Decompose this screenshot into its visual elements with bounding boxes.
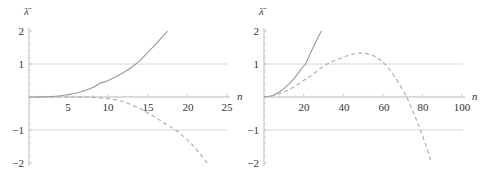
x-tick-label: 5	[65, 101, 71, 113]
x-tick-label: 80	[418, 101, 430, 113]
y-tick-label: −2	[12, 157, 24, 169]
x-axis-label: n	[472, 90, 478, 102]
x-tick-label: 15	[143, 101, 155, 113]
y-axis-label: λ̄	[258, 5, 267, 17]
y-tick-label: 2	[19, 25, 25, 37]
y-tick-label: 1	[254, 58, 260, 70]
x-tick-label: 40	[339, 101, 351, 113]
right-chart: λ̄ n 2 1 −1 −2 20 40 60 80 100	[247, 5, 478, 169]
y-axis-label: λ̄	[23, 5, 32, 17]
y-tick-label: −1	[247, 124, 259, 136]
x-tick-label: 20	[299, 101, 311, 113]
y-tick-label: 2	[254, 25, 260, 37]
y-tick-label: 1	[19, 58, 25, 70]
x-axis-label: n	[237, 90, 243, 102]
x-tick-label: 100	[454, 101, 471, 113]
x-tick-label: 20	[183, 101, 195, 113]
y-tick-label: −2	[247, 157, 259, 169]
left-chart: λ̄ n 2 1 −1 −2 5 10 15 20 25	[12, 5, 243, 169]
y-tick-label: −1	[12, 124, 24, 136]
figure: λ̄ n 2 1 −1 −2 5 10 15 20 25 λ̄ n 2 1 −1…	[0, 0, 495, 178]
x-tick-label: 60	[379, 101, 391, 113]
x-tick-label: 25	[222, 101, 234, 113]
x-tick-label: 10	[103, 101, 115, 113]
